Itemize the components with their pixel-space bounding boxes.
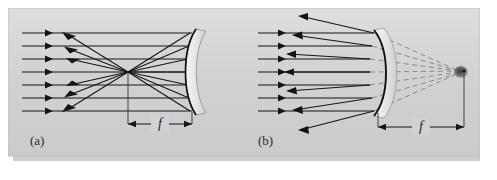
left-page-margin [0,0,8,180]
panel-b-focal-point-dot [462,69,466,73]
diagram-panel [8,8,480,156]
panel-b-virtual-focal-point [454,66,468,78]
right-page-margin [480,8,497,180]
bottom-page-margin [0,161,497,180]
panel-a-label: (a) [30,133,44,148]
figure-root: f (a) [0,0,497,180]
top-page-margin [0,0,497,8]
panel-b-label: (b) [258,133,273,148]
ray-diagram-svg: f (a) [0,0,497,180]
